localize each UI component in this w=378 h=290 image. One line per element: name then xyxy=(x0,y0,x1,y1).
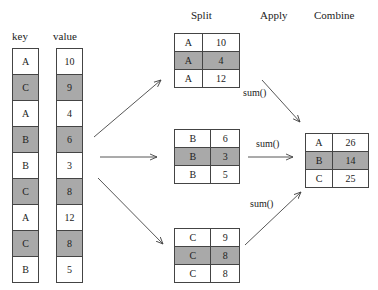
value-cell: 3 xyxy=(57,153,82,179)
key-cell: C xyxy=(175,265,211,283)
key-cell: B xyxy=(13,153,38,179)
value-cell: 9 xyxy=(57,75,82,101)
value-cell: 14 xyxy=(332,152,368,170)
table-row: B 3 xyxy=(175,148,240,166)
table-row: B 6 xyxy=(175,130,240,148)
value-cell: 12 xyxy=(57,205,82,231)
table-row: A 12 xyxy=(175,70,240,88)
key-cell: C xyxy=(306,170,333,188)
apply-header: Apply xyxy=(260,9,288,21)
value-cell: 25 xyxy=(332,170,368,188)
value-cell: 8 xyxy=(211,247,240,265)
key-cell: A xyxy=(175,52,203,70)
value-cell: 12 xyxy=(202,70,239,88)
table-row: A 10 xyxy=(175,34,240,52)
value-cell: 6 xyxy=(57,127,82,153)
value-cell: 4 xyxy=(57,101,82,127)
value-cell: 8 xyxy=(57,231,82,257)
table-row: C 25 xyxy=(306,170,369,188)
value-header: value xyxy=(53,30,77,42)
value-cell: 5 xyxy=(211,166,240,184)
combine-header: Combine xyxy=(314,9,354,21)
key-column: A C A B B C A C B xyxy=(12,48,39,283)
value-cell: 10 xyxy=(57,49,82,75)
table-row: C 8 xyxy=(175,265,240,283)
apply-label-a: sum() xyxy=(243,87,266,98)
key-cell: C xyxy=(13,179,38,205)
key-cell: C xyxy=(13,231,38,257)
value-cell: 5 xyxy=(57,257,82,282)
value-column: 10 9 4 6 3 8 12 8 5 xyxy=(56,48,83,283)
table-row: B 5 xyxy=(175,166,240,184)
key-cell: A xyxy=(13,49,38,75)
table-row: B 14 xyxy=(306,152,369,170)
key-cell: C xyxy=(175,229,211,247)
value-cell: 8 xyxy=(211,265,240,283)
key-cell: A xyxy=(13,205,38,231)
key-cell: B xyxy=(175,130,211,148)
key-cell: C xyxy=(13,75,38,101)
combine-table: A 26 B 14 C 25 xyxy=(305,133,369,188)
key-cell: B xyxy=(175,166,211,184)
table-row: C 8 xyxy=(175,247,240,265)
split-header: Split xyxy=(191,9,212,21)
value-cell: 3 xyxy=(211,148,240,166)
value-cell: 4 xyxy=(202,52,239,70)
key-cell: B xyxy=(13,257,38,282)
value-cell: 10 xyxy=(202,34,239,52)
value-cell: 6 xyxy=(211,130,240,148)
value-cell: 9 xyxy=(211,229,240,247)
value-cell: 8 xyxy=(57,179,82,205)
split-arrow-c xyxy=(98,178,163,244)
apply-label-c: sum() xyxy=(250,198,273,209)
table-row: A 26 xyxy=(306,134,369,152)
key-header: key xyxy=(12,30,28,42)
split-arrow-a xyxy=(94,80,161,137)
split-table-c: C 9 C 8 C 8 xyxy=(174,228,240,283)
key-cell: B xyxy=(306,152,333,170)
key-cell: A xyxy=(306,134,333,152)
key-cell: C xyxy=(175,247,211,265)
split-table-b: B 6 B 3 B 5 xyxy=(174,129,240,184)
table-row: C 9 xyxy=(175,229,240,247)
key-cell: A xyxy=(175,70,203,88)
apply-label-b: sum() xyxy=(256,138,279,149)
table-row: A 4 xyxy=(175,52,240,70)
key-cell: A xyxy=(175,34,203,52)
value-cell: 26 xyxy=(332,134,368,152)
key-cell: B xyxy=(13,127,38,153)
split-table-a: A 10 A 4 A 12 xyxy=(174,33,240,88)
apply-arrow-a xyxy=(262,80,300,122)
key-cell: A xyxy=(13,101,38,127)
key-cell: B xyxy=(175,148,211,166)
